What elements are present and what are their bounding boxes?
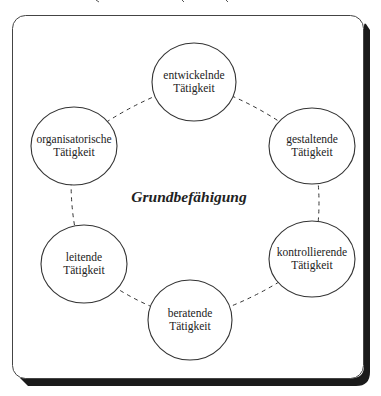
node-beratende: beratendeTätigkeit (148, 280, 232, 360)
node-label-line1: organisatorische (36, 133, 111, 146)
node-label-line1: gestaltende (286, 133, 338, 146)
node-organisatorische: organisatorischeTätigkeit (31, 107, 117, 185)
node-label-line2: Tätigkeit (173, 82, 215, 95)
node-label-line2: Tätigkeit (169, 320, 211, 333)
node-leitende: leitendeTätigkeit (41, 225, 127, 303)
node-label-line2: Tätigkeit (53, 146, 95, 159)
cropped-title-fragments (96, 0, 228, 2)
node-label-line2: Tätigkeit (291, 259, 333, 272)
node-label-line1: entwickelnde (163, 69, 224, 81)
diagram-canvas: entwickelndeTätigkeitgestaltendeTätigkei… (0, 0, 381, 396)
node-label-line2: Tätigkeit (291, 146, 333, 159)
node-entwickelnde: entwickelndeTätigkeit (152, 43, 236, 121)
node-label-line2: Tätigkeit (63, 264, 105, 277)
center-label: Grundbefähigung (131, 188, 247, 205)
node-label-line1: beratende (168, 307, 213, 319)
node-gestaltende: gestaltendeTätigkeit (269, 108, 355, 184)
node-label-line1: leitende (66, 251, 102, 263)
node-label-line1: kontrollierende (277, 246, 347, 258)
node-kontrollierende: kontrollierendeTätigkeit (269, 221, 355, 297)
